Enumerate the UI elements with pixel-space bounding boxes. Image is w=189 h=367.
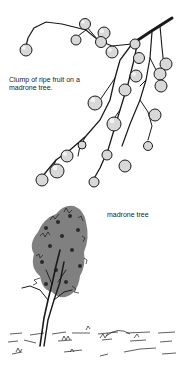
fruit-branch-illustration [0,0,189,190]
fruit-caption-line1: Clump of ripe fruit on a [9,76,80,84]
fruit-caption: Clump of ripe fruit on a madrone tree. [9,76,80,92]
tree-caption: madrone tree [107,211,149,219]
fruit-caption-line2: madrone tree. [9,84,80,92]
